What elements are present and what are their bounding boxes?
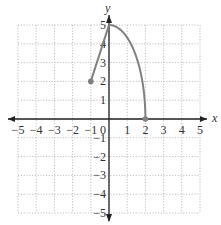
y-tick-label: −3 (93, 168, 106, 182)
y-tick-label: 5 (100, 18, 106, 32)
y-tick-label: 3 (100, 56, 106, 70)
x-tick-label: 3 (161, 123, 167, 137)
x-tick-label: 5 (197, 123, 203, 137)
data-series (88, 25, 148, 122)
x-tick-label: −4 (30, 123, 43, 137)
ellipse-curve (109, 25, 145, 119)
segment-line (91, 25, 109, 81)
x-tick-label: −5 (12, 123, 25, 137)
y-tick-label: 1 (100, 93, 106, 107)
x-tick-label: −2 (66, 123, 79, 137)
y-axis-arrow-down-icon (106, 214, 112, 222)
y-tick-label: −2 (93, 150, 106, 164)
y-tick-label: −5 (93, 206, 106, 220)
x-axis-arrow-left-icon (8, 116, 15, 122)
x-tick-label: 1 (124, 123, 130, 137)
x-tick-label: −3 (48, 123, 61, 137)
closed-endpoint-dot (143, 116, 149, 122)
y-axis-arrow-up-icon (106, 15, 112, 23)
x-axis-arrow-right-icon (200, 116, 207, 122)
x-axis-label: x (211, 111, 218, 125)
axes (8, 15, 207, 222)
x-tick-label: 4 (179, 123, 185, 137)
graph: −5−4−3−2−112345−5−4−3−2−1123450 x y (0, 0, 221, 225)
x-tick-label: 2 (142, 123, 148, 137)
y-tick-label: 2 (100, 74, 106, 88)
origin-label: 0 (100, 123, 106, 137)
y-axis-label: y (104, 1, 111, 15)
y-tick-label: −4 (93, 187, 106, 201)
closed-endpoint-dot (88, 79, 94, 85)
